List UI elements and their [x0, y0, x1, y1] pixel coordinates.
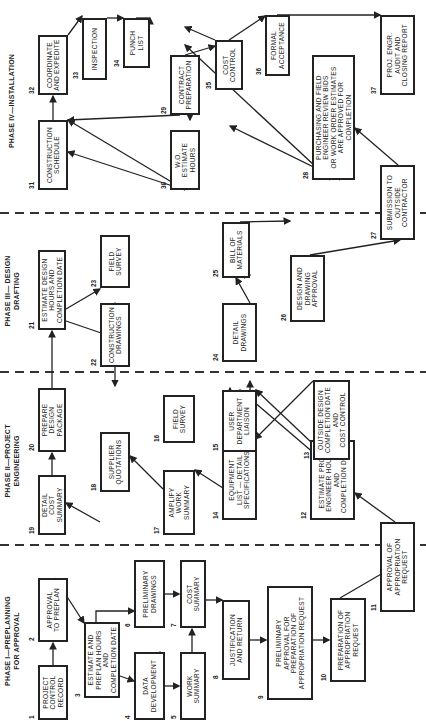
- step-number: 18: [90, 484, 97, 491]
- step-number: 12: [300, 512, 307, 519]
- step-number: 24: [212, 354, 219, 361]
- step-box: AMPLIFY WORK SUMMARY: [163, 470, 195, 535]
- step-box: ESTIMATE DESIGN HOURS AND COMPLETION DAT…: [38, 250, 66, 330]
- step-number: 26: [280, 314, 287, 321]
- step-number: 29: [160, 107, 167, 114]
- step-number: 32: [28, 87, 35, 94]
- step-number: 9: [257, 695, 264, 699]
- step-box: EQUIPMENT LIST — DETAIL SPECIFICATIONS: [222, 440, 257, 520]
- step-number: 20: [28, 444, 35, 451]
- step-box: FIELD SURVEY: [163, 395, 195, 443]
- step-number: 23: [90, 280, 97, 287]
- step-box: PROJ. ENGR. AUDIT AND CLOSING REPORT: [380, 15, 415, 95]
- step-box: PUNCH LIST: [123, 18, 150, 68]
- step-number: 31: [28, 182, 35, 189]
- step-box: APPROVAL TO PREPLAN: [38, 578, 68, 642]
- step-box: CONSTRUCTION DRAWINGS: [100, 303, 130, 367]
- step-number: 33: [72, 72, 79, 79]
- step-box: SUBMISSION TO OUTSIDE CONTRACTOR: [380, 165, 415, 240]
- step-box: OUTSIDE DESIGN COMPLETION DATE AND COST …: [313, 380, 350, 460]
- step-box: FIELD SURVEY: [100, 235, 130, 288]
- step-number: 3: [74, 693, 81, 697]
- step-number: 28: [302, 172, 309, 179]
- step-number: 15: [212, 444, 219, 451]
- step-box: COST SUMMARY: [180, 560, 206, 628]
- step-number: 14: [212, 512, 219, 519]
- step-box: COST CONTROL: [215, 40, 243, 90]
- step-number: 7: [170, 623, 177, 627]
- step-number: 19: [28, 527, 35, 534]
- step-number: 27: [370, 232, 377, 239]
- step-box: INSPECTION: [82, 18, 107, 80]
- step-number: 30: [160, 182, 167, 189]
- step-box: USER DEPARTMENT LIAISON: [222, 390, 257, 452]
- step-number: 1: [28, 715, 35, 719]
- step-box: PURCHASING AND FIELD ENGINEER REVIEW BID…: [312, 55, 355, 180]
- step-number: 34: [113, 60, 120, 67]
- step-number: 35: [205, 82, 212, 89]
- step-box: PRELIMINARY DRAWINGS: [134, 560, 165, 628]
- step-number: 8: [212, 675, 219, 679]
- step-box: SUPPLIER QUOTATIONS: [100, 432, 130, 492]
- step-box: COORDINATE AND EXPEDITE: [38, 35, 68, 95]
- step-box: BILL OF MATERIALS: [222, 222, 250, 278]
- step-box: DATA DEVELOPMENT: [134, 652, 165, 720]
- step-number: 11: [370, 604, 377, 611]
- step-number: 17: [153, 527, 160, 534]
- step-box: WORK SUMMARY: [180, 652, 206, 720]
- step-number: 4: [124, 715, 131, 719]
- step-number: 13: [303, 452, 310, 459]
- step-box: PROJECT CONTROL RECORD: [38, 665, 68, 720]
- step-box: CONTRACT PREPARATION: [170, 55, 200, 115]
- step-box: W.O. ESTIMATE HOURS: [170, 130, 200, 190]
- step-box: APPROVAL OF APPROPRIATION REQUEST: [380, 522, 415, 612]
- flowchart-diagram: PHASE I—PREPLANNING FOR APPROVAL PHASE I…: [0, 0, 426, 721]
- step-box: DESIGN AND DRAWING APPROVAL: [290, 255, 325, 322]
- step-box: CONSTRUCTION SCHEDULE: [38, 120, 68, 190]
- step-box: PREPARE DESIGN PACKAGE: [38, 388, 66, 452]
- step-box: JUSTIFICATION AND RETURN: [222, 600, 250, 680]
- step-number: 21: [28, 322, 35, 329]
- step-box: DETAIL DRAWINGS: [222, 303, 257, 362]
- step-number: 5: [170, 715, 177, 719]
- step-box: FORMAL ACCEPTANCE: [265, 15, 290, 76]
- step-box: DETAIL COST SUMMARY: [38, 475, 66, 535]
- step-number: 22: [90, 359, 97, 366]
- step-number: 2: [28, 637, 35, 641]
- step-number: 37: [370, 87, 377, 94]
- step-box: PRELIMINARY APPROVAL FOR PREPARATION OF …: [267, 586, 313, 700]
- step-box: ESTIMATE AND PREPLAN HOURS AND COMPLETIO…: [84, 622, 120, 698]
- step-number: 25: [212, 270, 219, 277]
- step-number: 36: [255, 68, 262, 75]
- step-box: PREPARATION OF APPROPRIATION REQUEST: [330, 598, 366, 682]
- step-number: 10: [320, 674, 327, 681]
- step-number: 16: [153, 435, 160, 442]
- step-number: 6: [124, 623, 131, 627]
